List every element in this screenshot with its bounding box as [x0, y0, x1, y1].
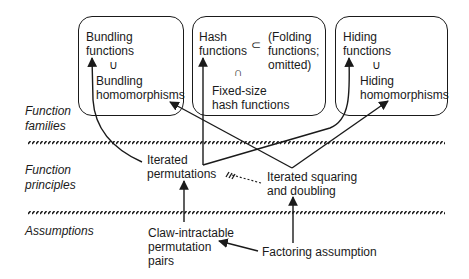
dotted-link-squaring-permutations [232, 175, 261, 183]
negation-marks-icon [226, 172, 235, 179]
separator-principles-assumptions [27, 211, 445, 215]
arrow-permutations-to-hiding-functions [203, 58, 349, 165]
arrow-factoring-to-claw [219, 241, 258, 251]
arrow-permutations-to-bundling-functions [92, 58, 142, 162]
diagram-wires [0, 0, 469, 279]
separator-families-principles [27, 141, 445, 145]
arrow-squaring-to-bundling-homomorphisms [170, 102, 292, 168]
